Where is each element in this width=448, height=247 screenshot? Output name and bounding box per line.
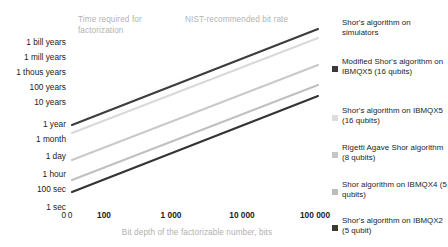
series-line-rigetti-agave bbox=[72, 65, 318, 160]
annotation-time-required: Time required for factorization bbox=[78, 15, 170, 36]
legend-item[interactable]: Rigetti Agave Shor algorithm (8 qubits) bbox=[330, 143, 448, 164]
legend-item-label: Modified Shor's algorithm on IBMQX5 (16 … bbox=[342, 57, 448, 78]
legend-swatch-icon bbox=[332, 152, 338, 158]
x-axis-tick-label: 0 bbox=[68, 210, 73, 220]
legend-swatch-icon bbox=[332, 27, 338, 33]
x-axis-tick-label: 100 000 bbox=[300, 210, 330, 220]
y-axis-tick-label: 1 year bbox=[0, 120, 66, 129]
y-axis-tick-label: 100 years bbox=[0, 83, 66, 92]
annotation-nist-bit-rate: NIST-recommended bit rate bbox=[185, 15, 315, 26]
y-axis-tick-label: 100 sec bbox=[0, 185, 66, 194]
x-axis-tick-label: 10 000 bbox=[229, 210, 254, 220]
y-axis-tick-label: 1 hour bbox=[0, 170, 66, 179]
y-axis-tick-label: 0 bbox=[0, 211, 66, 220]
x-axis-tick-label: 1 000 bbox=[161, 210, 182, 220]
series-line-shor-ibmqx5 bbox=[72, 38, 318, 133]
y-axis-tick-label: 1 mill years bbox=[0, 53, 66, 62]
legend-item[interactable]: Shor's algorithm on simulators bbox=[330, 18, 448, 39]
legend-swatch-icon bbox=[332, 189, 338, 195]
legend-item-label: Shor's algorithm on IBMQX2 (5 qubit) bbox=[342, 216, 448, 237]
series-line-shor-simulators bbox=[72, 26, 318, 122]
chart-legend: Shor's algorithm on simulatorsModified S… bbox=[330, 18, 448, 233]
plot-area: Time required for factorization NIST-rec… bbox=[0, 0, 330, 247]
legend-item[interactable]: Shor's algorithm on IBMQX5 (16 qubits) bbox=[330, 106, 448, 127]
legend-item[interactable]: Shor algorithm on IBMQX4 (5 qubits) bbox=[330, 180, 448, 201]
legend-swatch-icon bbox=[332, 66, 338, 72]
y-axis-tick-label: 1 bill years bbox=[0, 38, 66, 47]
chart-screenshot: Time required for factorization NIST-rec… bbox=[0, 0, 448, 247]
legend-swatch-icon bbox=[332, 225, 338, 231]
legend-item-label: Shor's algorithm on simulators bbox=[342, 18, 448, 39]
x-axis-tick-label: 100 bbox=[97, 210, 111, 220]
legend-item[interactable]: Shor's algorithm on IBMQX2 (5 qubit) bbox=[330, 216, 448, 237]
legend-item[interactable]: Modified Shor's algorithm on IBMQX5 (16 … bbox=[330, 57, 448, 78]
legend-swatch-icon bbox=[332, 115, 338, 121]
series-line-shor-ibmqx4 bbox=[72, 85, 318, 180]
x-axis-title: Bit depth of the factorizable number, bi… bbox=[72, 228, 322, 237]
y-axis-tick-label: 1 thous years bbox=[0, 68, 66, 77]
y-axis-tick-label: 1 day bbox=[0, 152, 66, 161]
legend-item-label: Shor's algorithm on IBMQX5 (16 qubits) bbox=[342, 106, 448, 127]
y-axis-tick-label: 10 years bbox=[0, 98, 66, 107]
legend-item-label: Shor algorithm on IBMQX4 (5 qubits) bbox=[342, 180, 448, 201]
legend-item-label: Rigetti Agave Shor algorithm (8 qubits) bbox=[342, 143, 448, 164]
y-axis-tick-label: 1 month bbox=[0, 135, 66, 144]
